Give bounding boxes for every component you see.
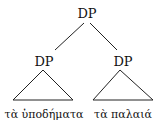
right-node-label: DP	[113, 55, 132, 68]
edge-root-left	[55, 23, 84, 50]
left-leaf-text: τὰ ὑποδήματα	[5, 109, 84, 121]
triangle-left	[13, 70, 73, 100]
edge-root-right	[90, 23, 117, 50]
triangle-right	[93, 70, 153, 100]
root-node-label: DP	[77, 7, 96, 20]
left-node-label: DP	[34, 55, 53, 68]
right-leaf-text: τὰ παλαιά	[94, 109, 152, 121]
